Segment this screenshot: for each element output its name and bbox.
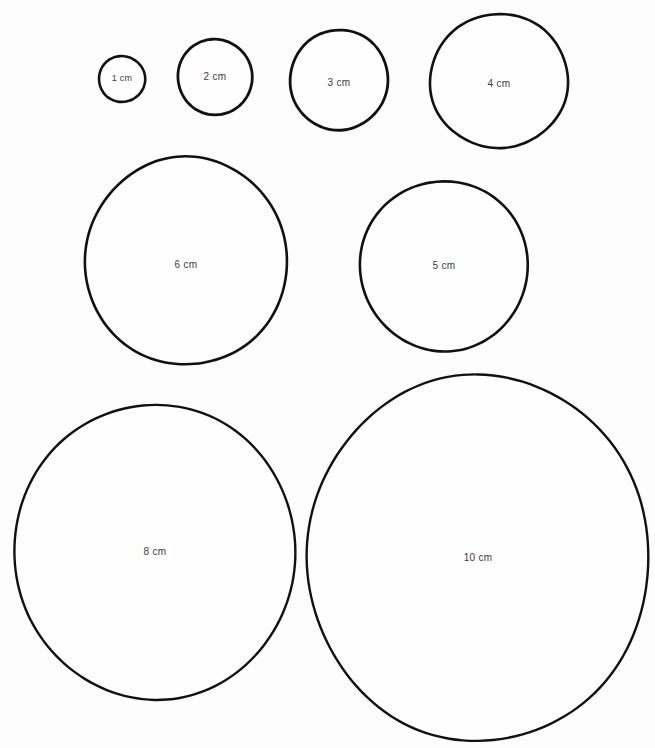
circle-2cm[interactable]: 2 cm bbox=[178, 39, 252, 115]
circle-layer: 1 cm2 cm3 cm4 cm6 cm5 cm8 cm10 cm bbox=[14, 14, 648, 741]
circle-4cm-label: 4 cm bbox=[488, 78, 511, 89]
circle-10cm-label: 10 cm bbox=[464, 552, 493, 563]
circle-8cm[interactable]: 8 cm bbox=[14, 405, 295, 700]
circle-6cm[interactable]: 6 cm bbox=[85, 156, 287, 364]
circle-1cm-label: 1 cm bbox=[112, 73, 133, 83]
circle-5cm-label: 5 cm bbox=[433, 260, 456, 271]
circle-5cm[interactable]: 5 cm bbox=[360, 181, 528, 351]
circle-4cm[interactable]: 4 cm bbox=[430, 14, 568, 148]
circle-3cm-label: 3 cm bbox=[328, 77, 351, 88]
circle-10cm[interactable]: 10 cm bbox=[307, 374, 649, 740]
circle-6cm-label: 6 cm bbox=[175, 259, 198, 270]
circle-3cm[interactable]: 3 cm bbox=[290, 30, 388, 130]
circle-2cm-label: 2 cm bbox=[204, 71, 227, 82]
circle-diagram: 1 cm2 cm3 cm4 cm6 cm5 cm8 cm10 cm bbox=[0, 0, 655, 748]
circle-8cm-label: 8 cm bbox=[144, 546, 167, 557]
circle-1cm[interactable]: 1 cm bbox=[99, 56, 145, 102]
circle-template-sheet: 1 cm2 cm3 cm4 cm6 cm5 cm8 cm10 cm bbox=[0, 0, 655, 748]
